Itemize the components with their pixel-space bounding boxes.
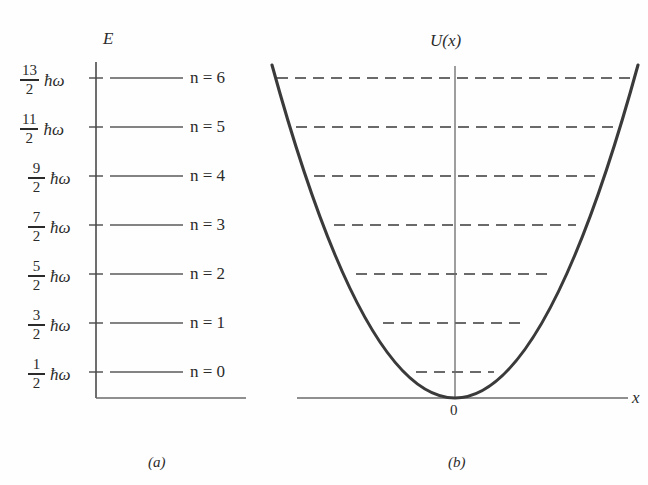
energy-value-n6: 13 2 ħω	[20, 63, 65, 97]
hbar-omega-unit: ħω	[50, 366, 71, 383]
fraction-numerator: 3	[31, 308, 43, 323]
quantum-number-label-n3: n = 3	[190, 216, 225, 233]
quantum-number-label-n4: n = 4	[190, 167, 225, 184]
energy-value-n5: 11 2 ħω	[20, 112, 64, 146]
panel-b-artwork	[272, 65, 638, 398]
fraction-denominator: 2	[24, 82, 36, 97]
figure-canvas	[0, 0, 648, 485]
fraction-n4: 9 2	[28, 161, 45, 195]
energy-value-n1: 3 2 ħω	[28, 308, 71, 342]
fraction-numerator: 13	[20, 63, 39, 78]
x-axis-label: x	[632, 389, 640, 406]
fraction-n5: 11 2	[20, 112, 38, 146]
energy-axis-label: E	[103, 30, 113, 47]
potential-axis-label: U(x)	[430, 32, 461, 49]
energy-value-n3: 7 2 ħω	[28, 210, 71, 244]
fraction-numerator: 11	[20, 112, 38, 127]
fraction-denominator: 2	[31, 376, 43, 391]
fraction-n0: 1 2	[28, 357, 45, 391]
hbar-omega-unit: ħω	[50, 170, 71, 187]
panel-b-caption: (b)	[448, 455, 466, 470]
fraction-n1: 3 2	[28, 308, 45, 342]
fraction-numerator: 1	[31, 357, 43, 372]
quantum-number-label-n5: n = 5	[190, 118, 225, 135]
fraction-n2: 5 2	[28, 259, 45, 293]
fraction-denominator: 2	[31, 229, 43, 244]
fraction-denominator: 2	[31, 278, 43, 293]
fraction-denominator: 2	[23, 131, 35, 146]
quantum-number-label-n1: n = 1	[190, 314, 225, 331]
quantum-number-label-n0: n = 0	[190, 363, 225, 380]
fraction-denominator: 2	[31, 180, 43, 195]
fraction-denominator: 2	[31, 327, 43, 342]
quantum-number-label-n6: n = 6	[190, 69, 225, 86]
harmonic-oscillator-figure: E 13 2 ħω 11 2 ħω 9 2 ħω 7 2 ħω	[0, 0, 648, 485]
fraction-n6: 13 2	[20, 63, 39, 97]
energy-value-n2: 5 2 ħω	[28, 259, 71, 293]
quantum-number-label-n2: n = 2	[190, 265, 225, 282]
panel-a-caption: (a)	[148, 455, 166, 470]
energy-value-n4: 9 2 ħω	[28, 161, 71, 195]
hbar-omega-unit: ħω	[50, 317, 71, 334]
fraction-numerator: 5	[31, 259, 43, 274]
hbar-omega-unit: ħω	[44, 72, 65, 89]
origin-label: 0	[450, 403, 458, 418]
fraction-numerator: 9	[31, 161, 43, 176]
hbar-omega-unit: ħω	[50, 219, 71, 236]
energy-value-n0: 1 2 ħω	[28, 357, 71, 391]
hbar-omega-unit: ħω	[43, 121, 64, 138]
hbar-omega-unit: ħω	[50, 268, 71, 285]
fraction-numerator: 7	[31, 210, 43, 225]
fraction-n3: 7 2	[28, 210, 45, 244]
